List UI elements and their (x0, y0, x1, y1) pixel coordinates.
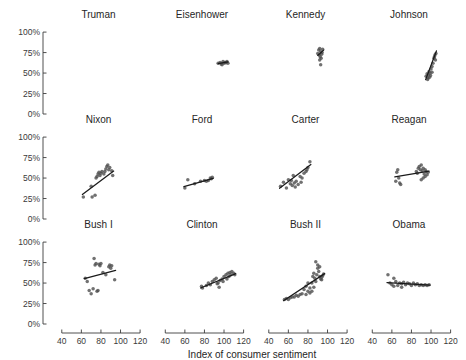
data-point (318, 265, 322, 269)
data-point (111, 174, 115, 178)
x-axis-col-2: 406080100120 (264, 330, 354, 347)
data-point (304, 293, 308, 297)
panel-title: Bush II (290, 219, 321, 230)
x-axis-col-0: 406080100120 (57, 330, 147, 347)
data-point (94, 262, 98, 266)
data-point (434, 58, 438, 62)
x-tick-label: 60 (387, 336, 397, 346)
y-axis-row-2: 0%25%50%75%100% (18, 237, 46, 329)
panel-clinton: Clinton (186, 219, 236, 290)
x-tick-label: 100 (320, 336, 334, 346)
panel-title: Carter (292, 114, 320, 125)
panel-reagan: Reagan (391, 114, 429, 186)
panel-bush-i: Bush I (84, 219, 117, 295)
panel-bush-ii: Bush II (283, 219, 326, 301)
data-point (90, 195, 94, 199)
data-point (282, 180, 286, 184)
x-tick-label: 40 (368, 336, 378, 346)
scatter-points (82, 163, 115, 198)
panel-obama: Obama (386, 219, 431, 289)
y-tick-label: 50% (23, 68, 40, 78)
data-point (308, 291, 312, 295)
data-point (299, 180, 303, 184)
fit-line (84, 270, 115, 278)
chart-canvas: 0%25%50%75%100%0%25%50%75%100%0%25%50%75… (0, 0, 466, 360)
x-tick-label: 40 (161, 336, 171, 346)
data-point (94, 176, 98, 180)
y-tick-label: 100% (18, 27, 40, 37)
data-point (221, 280, 225, 284)
scatter-points (386, 273, 431, 289)
data-point (399, 183, 403, 187)
data-point (91, 287, 95, 291)
panel-kennedy: Kennedy (286, 9, 325, 67)
data-point (320, 278, 324, 282)
data-point (314, 260, 318, 264)
x-tick-label: 80 (200, 336, 210, 346)
small-multiples-scatter-figure: 0%25%50%75%100%0%25%50%75%100%0%25%50%75… (0, 0, 466, 360)
scatter-points (394, 163, 430, 186)
data-point (89, 292, 93, 296)
fit-line (280, 165, 311, 189)
y-tick-label: 75% (23, 258, 40, 268)
data-point (317, 270, 321, 274)
panel-truman: Truman (81, 9, 115, 20)
data-point (85, 280, 89, 284)
panel-title: Obama (393, 219, 426, 230)
data-point (300, 292, 304, 296)
data-point (87, 289, 91, 293)
y-tick-label: 0% (28, 319, 41, 329)
x-tick-label: 60 (284, 336, 294, 346)
y-tick-label: 75% (23, 153, 40, 163)
panel-title: Ford (192, 114, 213, 125)
data-point (396, 168, 400, 172)
scatter-points (283, 260, 326, 301)
fit-line (283, 274, 324, 301)
y-tick-label: 25% (23, 194, 40, 204)
data-point (106, 163, 110, 167)
data-point (318, 58, 322, 62)
y-tick-label: 75% (23, 48, 40, 58)
data-point (294, 180, 298, 184)
panel-title: Kennedy (286, 9, 325, 20)
x-tick-label: 60 (180, 336, 190, 346)
panel-nixon: Nixon (82, 114, 115, 199)
data-point (400, 285, 404, 289)
panel-title: Johnson (390, 9, 428, 20)
data-point (312, 285, 316, 289)
x-tick-label: 80 (303, 336, 313, 346)
data-point (419, 163, 423, 167)
data-point (318, 47, 322, 51)
x-tick-label: 120 (237, 336, 251, 346)
data-point (214, 276, 218, 280)
x-tick-label: 120 (133, 336, 147, 346)
x-axis-col-3: 406080100120 (368, 330, 458, 347)
panel-johnson: Johnson (390, 9, 438, 81)
x-tick-label: 40 (57, 336, 67, 346)
y-tick-label: 50% (23, 278, 40, 288)
y-tick-label: 25% (23, 89, 40, 99)
data-point (430, 70, 434, 74)
data-point (285, 186, 289, 190)
data-point (215, 282, 219, 286)
data-point (217, 285, 221, 289)
data-point (421, 176, 425, 180)
data-point (392, 285, 396, 289)
data-point (308, 160, 312, 164)
y-tick-label: 25% (23, 299, 40, 309)
panel-eisenhower: Eisenhower (176, 9, 230, 67)
panel-ford: Ford (183, 114, 214, 190)
data-point (428, 75, 432, 79)
y-tick-label: 0% (28, 109, 41, 119)
scatter-points (84, 257, 117, 296)
x-tick-label: 80 (96, 336, 106, 346)
data-point (394, 180, 398, 184)
data-point (92, 257, 96, 261)
panel-title: Truman (81, 9, 115, 20)
data-point (315, 273, 319, 277)
data-point (110, 264, 114, 268)
data-point (392, 276, 396, 280)
y-axis-row-0: 0%25%50%75%100% (18, 27, 46, 119)
x-tick-label: 120 (340, 336, 354, 346)
data-point (312, 271, 316, 275)
